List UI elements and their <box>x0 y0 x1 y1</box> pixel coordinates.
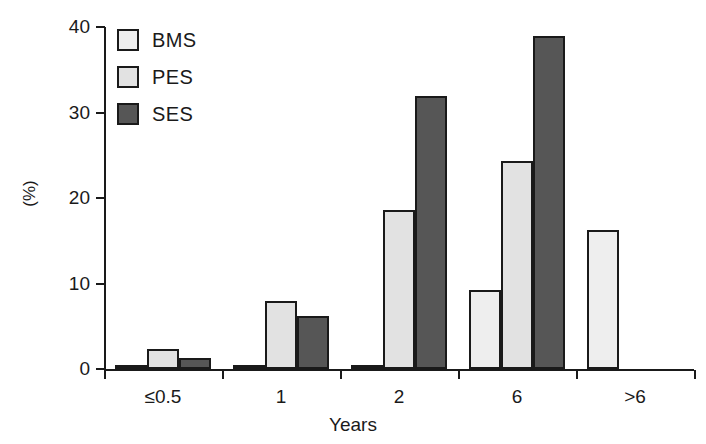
y-axis-tick-label: 20 <box>30 188 90 207</box>
legend-item-bms: BMS <box>117 24 267 56</box>
legend-swatch-icon <box>117 66 139 88</box>
bar-pes-2 <box>383 210 415 369</box>
legend-swatch-icon <box>117 29 139 51</box>
bar-pes-1 <box>265 301 297 369</box>
bar-ses-3 <box>533 36 565 369</box>
x-axis-line <box>104 369 694 371</box>
x-axis-tick <box>576 370 578 379</box>
x-axis-tick <box>104 370 106 379</box>
x-axis-tick-label: 2 <box>339 386 459 408</box>
x-axis-tick-label: 6 <box>457 386 577 408</box>
legend-label: SES <box>152 104 193 124</box>
x-axis-tick-label: 1 <box>221 386 341 408</box>
y-axis-title: (%) <box>21 159 38 229</box>
y-axis-tick-label: 0 <box>30 359 90 378</box>
x-axis-title: Years <box>0 415 706 435</box>
bar-chart: 010203040 (%) ≤0.5126>6 Years BMSPESSES <box>0 0 706 444</box>
bar-ses-2 <box>415 96 447 369</box>
y-axis-tick-label: 40 <box>30 17 90 36</box>
bar-pes-3 <box>501 161 533 369</box>
legend-label: BMS <box>152 30 197 50</box>
x-axis-tick <box>222 370 224 379</box>
legend-item-ses: SES <box>117 98 267 130</box>
x-axis-tick <box>340 370 342 379</box>
bar-ses-1 <box>297 316 329 369</box>
x-axis-tick <box>458 370 460 379</box>
y-axis-tick-label: 10 <box>30 274 90 293</box>
bar-bms-4 <box>587 230 619 369</box>
y-axis-tick-label: 30 <box>30 103 90 122</box>
bar-ses-0 <box>179 358 211 369</box>
legend-item-pes: PES <box>117 61 267 93</box>
x-axis-tick <box>694 370 696 379</box>
bar-pes-0 <box>147 349 179 369</box>
legend-swatch-icon <box>117 103 139 125</box>
x-axis-tick-label: >6 <box>575 386 695 408</box>
bar-bms-3 <box>469 290 501 369</box>
x-axis-tick-label: ≤0.5 <box>103 386 223 408</box>
chart-legend: BMSPESSES <box>117 24 267 135</box>
legend-label: PES <box>152 67 193 87</box>
